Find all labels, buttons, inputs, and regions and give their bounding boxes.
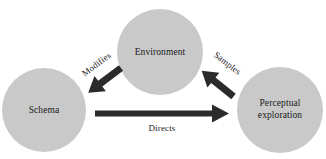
edge-directs[interactable] bbox=[95, 105, 229, 123]
edge-label-directs: Directs bbox=[148, 123, 175, 133]
diagram-canvas: Environment Schema Perceptual exploratio… bbox=[0, 0, 326, 159]
node-label-perceptual-exploration-line1: Perceptual bbox=[259, 98, 300, 108]
node-label-environment: Environment bbox=[135, 47, 186, 57]
directs-arrow-shape bbox=[95, 105, 229, 123]
node-label-schema: Schema bbox=[29, 105, 60, 115]
node-label-perceptual-exploration-line2: exploration bbox=[258, 110, 303, 120]
perceptual-cycle-diagram: Environment Schema Perceptual exploratio… bbox=[0, 0, 326, 159]
